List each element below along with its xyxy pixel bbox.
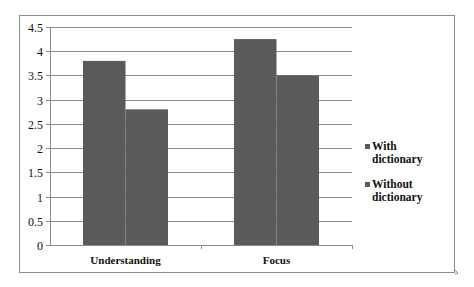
x-category-label: Understanding: [90, 254, 161, 266]
legend-label-line1: Without: [372, 178, 413, 190]
legend-swatch: [365, 182, 370, 187]
y-tick-label: 3: [37, 94, 43, 108]
y-tick-label: 1.5: [28, 166, 43, 180]
y-tick-label: 0.5: [28, 215, 43, 229]
legend-label-line2: dictionary: [372, 153, 423, 166]
y-tick-label: 2: [37, 142, 43, 156]
y-tick-label: 4.5: [28, 21, 43, 35]
legend-swatch: [365, 144, 370, 149]
bar-understanding-without: [126, 109, 169, 245]
bar-focus-with: [234, 39, 277, 245]
y-tick-label: 4: [37, 45, 43, 59]
x-category-label: Focus: [263, 254, 291, 266]
legend-label-line1: With: [372, 140, 397, 152]
bar-understanding-with: [83, 61, 126, 245]
y-tick-label: 3.5: [28, 69, 43, 83]
bar-chart: 00.511.522.533.544.5UnderstandingFocusWi…: [0, 0, 474, 287]
y-tick-label: 2.5: [28, 118, 43, 132]
bar-focus-without: [277, 75, 320, 245]
y-tick-label: 0: [37, 239, 43, 253]
y-tick-label: 1: [37, 191, 43, 205]
legend-label-line2: dictionary: [372, 191, 423, 204]
corner-mark-icon: [455, 270, 458, 274]
